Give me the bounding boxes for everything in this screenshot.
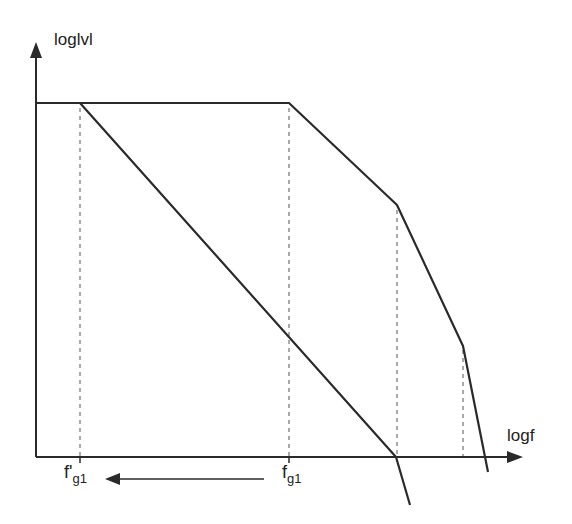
x-axis-arrow-icon	[507, 451, 523, 463]
tick-label-fg1: fg1	[282, 462, 301, 483]
compensated-response-curve	[80, 103, 410, 505]
tick-label-fg1-prime: f'g1	[64, 462, 87, 483]
y-axis-arrow-icon	[30, 42, 42, 58]
dashed-guides	[80, 108, 463, 457]
bode-diagram	[0, 0, 572, 524]
curves	[36, 103, 488, 505]
x-axis-label: logf	[507, 426, 534, 446]
y-axis-label: loglvl	[54, 30, 93, 50]
shift-arrow-head-icon	[105, 473, 120, 485]
tick-label-subscript: g1	[287, 471, 301, 486]
axes	[30, 42, 523, 463]
original-response-curve	[36, 103, 488, 472]
shift-arrow	[105, 473, 264, 485]
tick-label-subscript: g1	[72, 471, 86, 486]
